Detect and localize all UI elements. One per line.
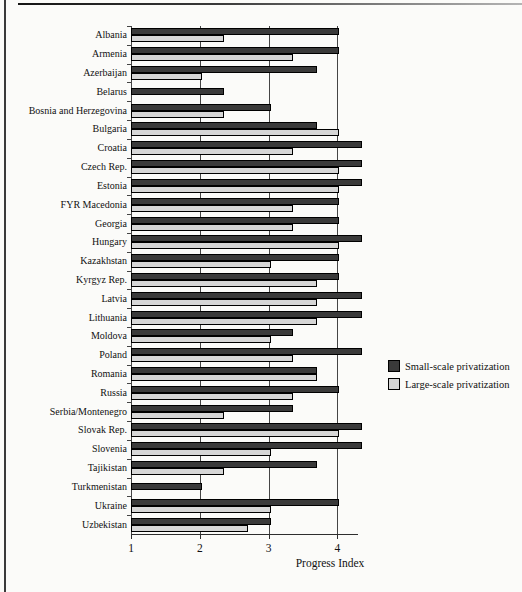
- x-axis-tick: [337, 535, 338, 539]
- bar-large-scale: [131, 393, 293, 400]
- bar-large-scale: [131, 242, 339, 249]
- bar-large-scale: [131, 186, 339, 193]
- bar-large-scale: [131, 111, 224, 118]
- category-label: Slovenia: [8, 440, 127, 459]
- bar-small-scale: [131, 405, 293, 412]
- category-label: Albania: [8, 26, 127, 45]
- bar-row: [131, 496, 358, 515]
- bar-row: [131, 120, 358, 139]
- category-label: Slovak Rep.: [8, 421, 127, 440]
- x-axis-tick: [269, 535, 270, 539]
- bar-large-scale: [131, 318, 317, 325]
- bar-row: [131, 26, 358, 45]
- category-label: Bulgaria: [8, 120, 127, 139]
- bar-row: [131, 177, 358, 196]
- bar-large-scale: [131, 167, 339, 174]
- legend-item-large-scale: Large-scale privatization: [388, 378, 510, 390]
- bar-row: [131, 402, 358, 421]
- bar-row: [131, 45, 358, 64]
- x-tick-label: 2: [197, 542, 203, 554]
- bar-large-scale: [131, 525, 248, 532]
- bar-large-scale: [131, 205, 293, 212]
- legend-label-large-scale: Large-scale privatization: [405, 379, 509, 390]
- category-label: Russia: [8, 383, 127, 402]
- bar-row: [131, 195, 358, 214]
- bar-row: [131, 233, 358, 252]
- bar-row: [131, 327, 358, 346]
- category-label: Estonia: [8, 177, 127, 196]
- bar-large-scale: [131, 336, 271, 343]
- bar-large-scale: [131, 148, 293, 155]
- bar-small-scale: [131, 179, 362, 186]
- category-label: Belarus: [8, 82, 127, 101]
- bar-small-scale: [131, 160, 362, 167]
- category-label: Serbia/Montenegro: [8, 402, 127, 421]
- category-label: Poland: [8, 346, 127, 365]
- category-label: Croatia: [8, 139, 127, 158]
- bar-large-scale: [131, 468, 224, 475]
- bar-large-scale: [131, 374, 317, 381]
- category-label: Romania: [8, 365, 127, 384]
- bar-large-scale: [131, 449, 271, 456]
- category-label: Georgia: [8, 214, 127, 233]
- x-tick-label: 3: [266, 542, 272, 554]
- category-label: Armenia: [8, 45, 127, 64]
- category-label: FYR Macedonia: [8, 195, 127, 214]
- bar-large-scale: [131, 506, 271, 513]
- bar-large-scale: [131, 224, 293, 231]
- bar-row: [131, 459, 358, 478]
- bar-row: [131, 139, 358, 158]
- bar-large-scale: [131, 35, 224, 42]
- legend-swatch-small-scale-icon: [388, 360, 400, 372]
- category-labels: AlbaniaArmeniaAzerbaijanBelarusBosnia an…: [8, 26, 127, 534]
- bar-row: [131, 289, 358, 308]
- bar-small-scale: [131, 292, 362, 299]
- category-label: Turkmenistan: [8, 478, 127, 497]
- legend: Small-scale privatization Large-scale pr…: [388, 360, 510, 396]
- legend-swatch-large-scale-icon: [388, 378, 400, 390]
- category-label: Kyrgyz Rep.: [8, 271, 127, 290]
- bar-small-scale: [131, 254, 339, 261]
- x-tick-label: 1: [128, 542, 134, 554]
- bar-row: [131, 365, 358, 384]
- bar-small-scale: [131, 104, 271, 111]
- bar-small-scale: [131, 235, 362, 242]
- bar-small-scale: [131, 329, 293, 336]
- x-axis-title: Progress Index: [268, 557, 392, 569]
- category-label: Uzbekistan: [8, 515, 127, 534]
- category-label: Kazakhstan: [8, 252, 127, 271]
- bar-small-scale: [131, 198, 339, 205]
- legend-item-small-scale: Small-scale privatization: [388, 360, 510, 372]
- category-label: Czech Rep.: [8, 158, 127, 177]
- bar-large-scale: [131, 54, 293, 61]
- bar-large-scale: [131, 430, 339, 437]
- x-axis-tick: [200, 535, 201, 539]
- bar-small-scale: [131, 311, 362, 318]
- bar-small-scale: [131, 423, 362, 430]
- bar-small-scale: [131, 66, 317, 73]
- bar-large-scale: [131, 73, 202, 80]
- bar-large-scale: [131, 355, 293, 362]
- bar-small-scale: [131, 518, 271, 525]
- bar-row: [131, 308, 358, 327]
- bar-large-scale: [131, 261, 271, 268]
- bar-small-scale: [131, 386, 339, 393]
- x-axis: [131, 534, 358, 540]
- bar-small-scale: [131, 88, 224, 95]
- bar-small-scale: [131, 442, 362, 449]
- bar-small-scale: [131, 367, 317, 374]
- category-label: Tajikistan: [8, 459, 127, 478]
- x-tick-labels: 1234: [131, 542, 358, 556]
- bar-row: [131, 440, 358, 459]
- bar-row: [131, 383, 358, 402]
- category-label: Moldova: [8, 327, 127, 346]
- bar-row: [131, 158, 358, 177]
- category-label: Lithuania: [8, 308, 127, 327]
- bar-small-scale: [131, 273, 339, 280]
- bar-small-scale: [131, 217, 339, 224]
- bar-row: [131, 101, 358, 120]
- category-label: Ukraine: [8, 496, 127, 515]
- bar-row: [131, 252, 358, 271]
- bar-large-scale: [131, 280, 317, 287]
- bar-large-scale: [131, 412, 224, 419]
